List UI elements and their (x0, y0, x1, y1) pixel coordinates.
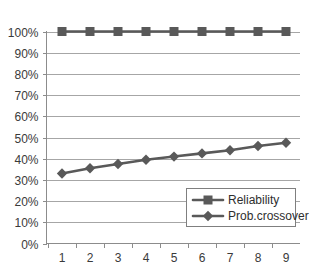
series-reliability (58, 27, 291, 36)
data-point-marker-square (114, 27, 123, 36)
y-axis-tick-label: 40% (14, 153, 38, 167)
data-point-marker-square (86, 27, 95, 36)
y-axis-tick-label: 90% (14, 47, 38, 61)
y-axis-tick-label: 30% (14, 174, 38, 188)
data-point-marker-diamond (281, 138, 291, 148)
y-axis-tick-label: 70% (14, 89, 38, 103)
x-axis-labels-group: 123456789 (59, 251, 290, 265)
chart-legend: ReliabilityProb.crossover (187, 189, 309, 227)
y-axis-tick-label: 20% (14, 195, 38, 209)
data-point-marker-diamond (141, 155, 151, 165)
x-axis-tick-label: 1 (59, 251, 66, 265)
data-point-marker-diamond (197, 148, 207, 158)
y-axis-tick-label: 100% (8, 26, 39, 40)
x-axis-tick-label: 4 (143, 251, 150, 265)
y-axis-tick-label: 80% (14, 68, 38, 82)
x-axis-tick-label: 5 (171, 251, 178, 265)
y-axis-tick-label: 10% (14, 216, 38, 230)
data-point-marker-square (142, 27, 151, 36)
y-axis-tick-label: 60% (14, 110, 38, 124)
x-axis-tick-label: 6 (199, 251, 206, 265)
x-axis-tick-label: 7 (227, 251, 234, 265)
data-point-marker-diamond (85, 163, 95, 173)
data-point-marker-square (198, 27, 207, 36)
x-axis-ticks-group (49, 244, 273, 248)
x-axis-tick-label: 2 (87, 251, 94, 265)
data-point-marker-square (226, 27, 235, 36)
data-point-marker-diamond (113, 159, 123, 169)
line-chart: 0%10%20%30%40%50%60%70%80%90%100% 123456… (0, 0, 315, 274)
series-prob-crossover (57, 138, 291, 179)
chart-container: 0%10%20%30%40%50%60%70%80%90%100% 123456… (0, 0, 315, 274)
data-point-marker-diamond (57, 168, 67, 178)
legend-label: Prob.crossover (228, 209, 309, 223)
y-axis-ticks-group (43, 33, 47, 245)
data-point-marker-diamond (225, 145, 235, 155)
x-axis-tick-label: 3 (115, 251, 122, 265)
data-point-marker-square (170, 27, 179, 36)
y-axis-tick-label: 0% (21, 238, 39, 252)
data-point-marker-square (58, 27, 67, 36)
data-point-marker-square (204, 196, 213, 205)
data-point-marker-square (282, 27, 291, 36)
series-group (57, 27, 291, 179)
data-point-marker-diamond (253, 141, 263, 151)
y-axis-tick-label: 50% (14, 132, 38, 146)
data-point-marker-diamond (169, 151, 179, 161)
y-axis-labels-group: 0%10%20%30%40%50%60%70%80%90%100% (8, 26, 39, 252)
legend-label: Reliability (228, 193, 279, 207)
x-axis-tick-label: 9 (283, 251, 290, 265)
data-point-marker-square (254, 27, 263, 36)
x-axis-tick-label: 8 (255, 251, 262, 265)
